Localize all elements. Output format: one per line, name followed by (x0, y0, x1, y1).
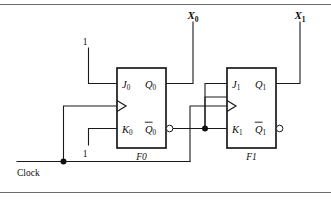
figure-canvas: J0 K0 Q0 Q0 F0 J1 K1 Q1 (0, 0, 331, 206)
clock-label: Clock (17, 168, 40, 178)
const-one-k0-label: 1 (83, 149, 88, 159)
f1-qbar-bubble-icon (276, 125, 283, 132)
circuit-diagram: J0 K0 Q0 Q0 F0 J1 K1 Q1 (0, 0, 331, 206)
wire-q1-to-x1 (276, 22, 300, 84)
f0-name-label: F0 (135, 152, 147, 162)
wire-const1-to-j0 (89, 48, 118, 84)
junction-dot-clock (61, 159, 67, 165)
wire-clock-to-f1-clk (190, 106, 227, 162)
wire-qbar0-to-j1 (205, 97, 227, 129)
wire-clock-to-f0-clk (64, 106, 118, 162)
junction-dot-qbar0 (202, 126, 208, 132)
const-one-j0-label: 1 (83, 37, 88, 47)
wire-q0-to-x0 (166, 22, 193, 84)
f1-name-label: F1 (245, 152, 257, 162)
f0-qbar-bubble-icon (166, 125, 173, 132)
wire-const1-to-k0 (89, 129, 118, 146)
